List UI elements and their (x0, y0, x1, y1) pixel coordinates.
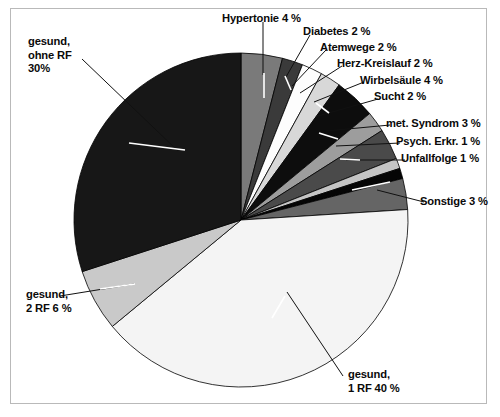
label-hypertonie: Hypertonie 4 % (222, 12, 301, 26)
label-herz-kreislauf: Herz-Kreislauf 2 % (337, 57, 433, 71)
label-atemwege: Atemwege 2 % (320, 41, 397, 55)
label-sonstige: Sonstige 3 % (420, 195, 488, 209)
label-gesund-ohne-rf: gesund, ohne RF 30% (28, 35, 72, 76)
label-gesund-2rf: gesund, 2 RF 6 % (26, 288, 71, 315)
label-sucht: Sucht 2 % (374, 90, 426, 104)
label-diabetes: Diabetes 2 % (303, 25, 370, 39)
pie-chart-figure: Hypertonie 4 % Diabetes 2 % Atemwege 2 %… (0, 0, 500, 417)
label-gesund-1rf: gesund, 1 RF 40 % (348, 368, 400, 395)
label-wirbelsaeule: Wirbelsäule 4 % (360, 74, 443, 88)
label-unfallfolge: Unfallfolge 1 % (401, 152, 479, 166)
tick-unfallfolge (340, 159, 360, 160)
pie-slices-group (74, 53, 408, 387)
label-met-syndrom: met. Syndrom 3 % (386, 117, 481, 131)
label-psych-erkr: Psych. Erkr. 1 % (396, 135, 480, 149)
